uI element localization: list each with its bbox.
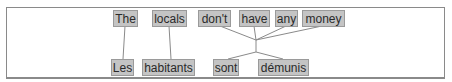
link-dont-hub: [220, 26, 256, 40]
target-token-habitants: habitants: [142, 59, 195, 76]
source-token-locals: locals: [152, 10, 187, 27]
link-hub-sont: [228, 52, 256, 59]
source-token-dont: don't: [198, 10, 231, 27]
link-have-hub: [254, 26, 256, 40]
link-money-hub: [256, 26, 322, 40]
link-any-hub: [256, 26, 286, 40]
link-the-les: [123, 26, 125, 59]
source-token-the: The: [113, 10, 138, 27]
link-hub-demunis: [256, 52, 283, 59]
source-token-any: any: [275, 10, 298, 27]
source-token-money: money: [302, 10, 345, 27]
target-token-sont: sont: [213, 59, 239, 76]
link-locals-habitants: [169, 26, 171, 59]
source-token-have: have: [239, 10, 270, 27]
target-token-les: Les: [111, 59, 134, 76]
target-token-demunis: démunis: [258, 59, 309, 76]
